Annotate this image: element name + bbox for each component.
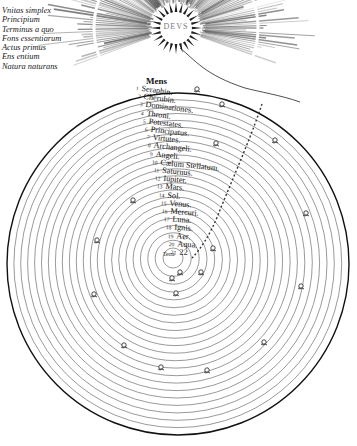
attribute-text: Actus primus — [2, 43, 82, 52]
terra-label: Terra — [163, 251, 175, 257]
sphere-number: 13 — [157, 183, 163, 189]
attribute-text: Vnitas simplex — [2, 6, 82, 15]
sphere-number: 8 — [148, 142, 151, 148]
sphere-name: 22 — [179, 247, 188, 256]
sphere-number: 19 — [167, 233, 173, 239]
divine-attributes-list: Vnitas simplex Principium Terminus a quo… — [2, 6, 82, 71]
descending-chain — [192, 104, 262, 258]
sphere-number: 3 — [139, 101, 143, 107]
sphere-number: 18 — [166, 224, 172, 230]
attribute-text: Principium — [2, 15, 82, 24]
cosmos-diagram: Vnitas simplex Principium Terminus a quo… — [0, 0, 357, 446]
sphere-number: 4 — [141, 110, 144, 116]
attribute-text: Natura naturans — [2, 62, 82, 71]
sphere-number: 9 — [150, 151, 153, 157]
attribute-text: Ens entium — [2, 52, 82, 61]
attribute-text: Fons essentiarum — [2, 34, 82, 43]
attribute-text: Terminus a quo — [2, 25, 82, 34]
devs-label: DEVS — [156, 22, 196, 31]
